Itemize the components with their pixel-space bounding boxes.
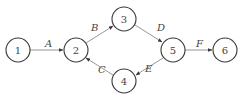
node-1: 1 <box>6 38 30 62</box>
node-label-3: 3 <box>121 14 127 25</box>
network-diagram: A B D F E C 1 2 3 4 5 6 <box>0 0 247 100</box>
node-label-1: 1 <box>15 45 21 56</box>
edge-label-c: C <box>98 64 106 75</box>
node-label-4: 4 <box>121 76 127 87</box>
node-5: 5 <box>161 38 185 62</box>
edge-label-b: B <box>90 22 98 33</box>
edge-b: B <box>86 22 113 43</box>
edge-e: E <box>136 58 163 75</box>
edge-label-f: F <box>195 38 204 49</box>
node-6: 6 <box>213 38 237 62</box>
edge-f: F <box>185 38 212 50</box>
edge-label-d: D <box>156 22 165 33</box>
node-4: 4 <box>112 69 136 93</box>
edge-d: D <box>135 22 165 42</box>
node-3: 3 <box>112 7 136 31</box>
edge-label-a: A <box>44 38 52 49</box>
node-2: 2 <box>64 38 88 62</box>
node-label-2: 2 <box>73 45 79 56</box>
edge-a: A <box>30 38 63 50</box>
node-label-6: 6 <box>222 45 228 56</box>
edge-c: C <box>86 58 113 75</box>
node-label-5: 5 <box>170 45 176 56</box>
edge-label-e: E <box>144 63 153 74</box>
